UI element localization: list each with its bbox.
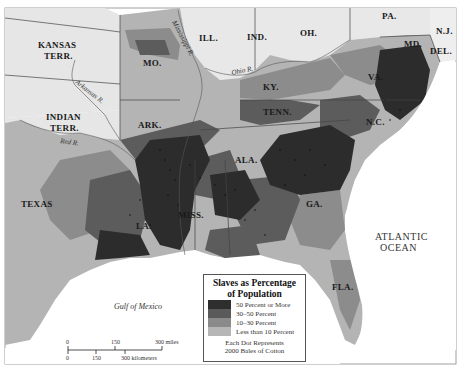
legend-label-10-30: 10–30 Percent [236,319,276,327]
legend-item-30-50: 30–50 Percent [208,309,301,318]
legend-item-10-30: 10–30 Percent [208,318,301,327]
scale-km-300: 300 kilometers [121,355,157,361]
label-indian-terr: INDIAN [46,112,81,122]
label-md: MD. [404,39,422,49]
label-mo: MO. [143,58,162,68]
legend-item-50-plus: 50 Percent or More [208,300,301,309]
label-va: VA. [368,72,383,82]
label-miss: MISS. [178,210,204,220]
label-pa: PA. [382,11,396,21]
scale-km-150: 150 [92,355,101,361]
label-ark: ARK. [138,120,161,130]
scale-miles-0: 0 [66,339,69,345]
label-del: DEL. [430,46,452,56]
legend-swatch-under-10 [208,327,231,336]
label-ky: KY. [263,82,279,92]
label-atlantic: ATLANTIC [375,231,428,242]
scale-miles-300: 300 miles [155,339,179,345]
legend-swatch-50-plus [208,300,231,309]
scale-km-0: 0 [66,355,69,361]
label-ala: ALA. [235,155,257,165]
label-kansas-terr-2: TERR. [44,51,73,61]
scale-miles-150: 150 [111,339,120,345]
label-tenn: TENN. [263,107,292,117]
legend-note: Each Dot Represents 2000 Bales of Cotton [208,339,301,355]
legend-swatch-10-30 [208,318,231,327]
legend-label-50-plus: 50 Percent or More [236,301,290,309]
legend-label-under-10: Less than 10 Percent [236,328,294,336]
legend-title-line1: Slaves as Percentage [208,278,301,289]
label-ill: ILL. [199,33,218,43]
legend-swatch-30-50 [208,309,231,318]
label-ind: IND. [247,32,267,42]
legend-note-line1: Each Dot Represents [208,339,301,347]
legend-label-30-50: 30–50 Percent [236,310,276,318]
label-fla: FLA. [332,282,353,292]
label-oh: OH. [300,28,317,38]
label-kansas-terr: KANSAS [38,40,76,50]
label-nj: N.J. [436,26,453,36]
legend-item-under-10: Less than 10 Percent [208,327,301,336]
label-indian-terr-2: TERR. [50,123,79,133]
label-texas: TEXAS [21,199,53,209]
legend-title-line2: of Population [208,289,301,300]
legend: Slaves as Percentage of Population 50 Pe… [203,274,306,362]
label-gulf-of-mexico: Gulf of Mexico [114,302,162,311]
label-ocean: OCEAN [380,242,417,253]
legend-note-line2: 2000 Bales of Cotton [208,347,301,355]
label-ga: GA. [306,199,323,209]
slavery-cotton-map: KANSAS TERR. INDIAN TERR. MO. ILL. IND. … [0,0,459,369]
label-nc: N.C. [366,117,385,127]
label-la: LA. [136,221,152,231]
